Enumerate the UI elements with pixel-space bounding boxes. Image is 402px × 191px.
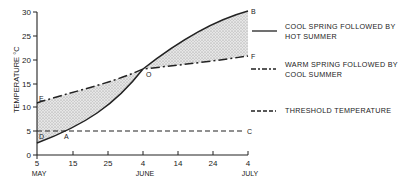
svg-text:5: 5 <box>27 127 32 136</box>
svg-text:20: 20 <box>22 56 31 65</box>
svg-text:15: 15 <box>22 80 31 89</box>
svg-text:10: 10 <box>22 103 31 112</box>
y-axis-label: TEMPERATURE °C <box>12 46 21 113</box>
svg-text:COOL SPRING FOLLOWED BY: COOL SPRING FOLLOWED BY <box>285 22 395 31</box>
svg-text:F: F <box>251 53 255 60</box>
svg-text:E: E <box>39 95 44 102</box>
svg-text:15: 15 <box>69 159 78 168</box>
svg-text:30: 30 <box>22 8 31 17</box>
svg-text:5: 5 <box>35 159 40 168</box>
svg-text:25: 25 <box>22 32 31 41</box>
svg-text:24: 24 <box>209 159 218 168</box>
svg-text:B: B <box>251 8 256 15</box>
y-tick-labels: 30 25 20 15 10 5 0 <box>22 8 31 160</box>
shaded-region-late <box>143 11 248 69</box>
svg-text:D: D <box>39 133 44 140</box>
svg-text:JULY: JULY <box>242 170 259 177</box>
shaded-region-early <box>37 69 143 143</box>
svg-text:JUNE: JUNE <box>136 170 155 177</box>
temperature-chart: 30 25 20 15 10 5 0 TEMPERATURE °C 5 15 2… <box>0 0 402 191</box>
svg-text:25: 25 <box>104 159 113 168</box>
svg-text:COOL SUMMER: COOL SUMMER <box>285 70 342 79</box>
svg-text:THRESHOLD TEMPERATURE: THRESHOLD TEMPERATURE <box>285 106 391 115</box>
svg-text:A: A <box>64 133 69 140</box>
svg-text:C: C <box>247 128 252 135</box>
y-ticks <box>33 12 37 155</box>
legend: COOL SPRING FOLLOWED BY HOT SUMMER WARM … <box>251 22 398 115</box>
svg-text:4: 4 <box>246 159 251 168</box>
svg-text:MAY: MAY <box>32 170 47 177</box>
x-tick-labels: 5 15 25 4 14 24 4 MAY JUNE JULY <box>32 159 259 177</box>
svg-text:14: 14 <box>174 159 183 168</box>
svg-text:0: 0 <box>27 151 32 160</box>
svg-text:WARM SPRING FOLLOWED BY: WARM SPRING FOLLOWED BY <box>285 60 398 69</box>
svg-text:4: 4 <box>141 159 146 168</box>
svg-text:HOT SUMMER: HOT SUMMER <box>285 32 337 41</box>
svg-text:O: O <box>146 71 152 78</box>
